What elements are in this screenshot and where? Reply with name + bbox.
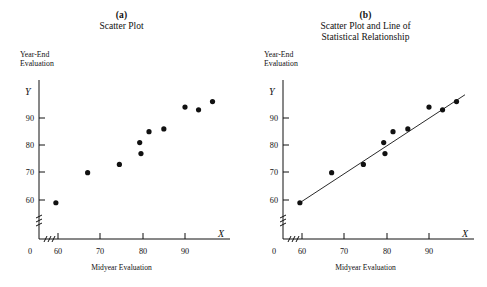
- data-point: [117, 162, 122, 167]
- data-point: [361, 162, 366, 167]
- panel-b-ytick-90: 90: [270, 114, 278, 123]
- panel-a-plot: 90 80 70 60 0 60 70 80 90: [0, 0, 243, 287]
- panel-b-ytick-60: 60: [270, 196, 278, 205]
- data-point: [329, 170, 334, 175]
- panel-b-axes: [283, 80, 474, 239]
- data-point: [454, 99, 459, 104]
- panel-b-y-ticks: 90 80 70 60: [270, 114, 289, 205]
- data-point: [182, 104, 187, 109]
- panel-a-xtick-60: 60: [54, 247, 62, 256]
- panel-a: (a) Scatter Plot Year-End Evaluation Y X…: [0, 0, 243, 287]
- panel-a-y-ticks: 90 80 70 60: [26, 114, 45, 205]
- panel-a-ytick-70: 70: [26, 168, 34, 177]
- data-point: [85, 170, 90, 175]
- panel-a-axes: [39, 80, 230, 239]
- data-point: [196, 107, 201, 112]
- panel-a-ytick-90: 90: [26, 114, 34, 123]
- data-point: [440, 107, 445, 112]
- data-point: [405, 126, 410, 131]
- panel-b-xtick-70: 70: [340, 247, 348, 256]
- panel-a-ytick-80: 80: [26, 141, 34, 150]
- panel-b-ytick-70: 70: [270, 168, 278, 177]
- panel-b-xtick-60: 60: [298, 247, 306, 256]
- data-point: [146, 129, 151, 134]
- panel-a-xtick-80: 80: [139, 247, 147, 256]
- data-point: [426, 104, 431, 109]
- panel-b-xtick-90: 90: [425, 247, 433, 256]
- panel-a-x-ticks: 0 60 70 80 90: [28, 233, 189, 256]
- data-point: [53, 200, 58, 205]
- panel-b-regression-line: [300, 95, 465, 203]
- data-point: [210, 99, 215, 104]
- figure-canvas: (a) Scatter Plot Year-End Evaluation Y X…: [0, 0, 487, 287]
- data-point: [138, 151, 143, 156]
- panel-b: (b) Scatter Plot and Line of Statistical…: [244, 0, 487, 287]
- panel-b-ytick-80: 80: [270, 141, 278, 150]
- panel-b-plot: 90 80 70 60 0 60 70 80 90: [244, 0, 487, 287]
- panel-a-data-points: [53, 99, 215, 205]
- data-point: [137, 140, 142, 145]
- panel-b-xtick-80: 80: [383, 247, 391, 256]
- panel-b-xtick-origin: 0: [272, 247, 276, 256]
- panel-a-xtick-origin: 0: [28, 247, 32, 256]
- panel-b-x-axis-caption: Midyear Evaluation: [244, 263, 487, 272]
- data-point: [390, 129, 395, 134]
- data-point: [297, 200, 302, 205]
- panel-a-xtick-70: 70: [96, 247, 104, 256]
- panel-a-x-axis-caption: Midyear Evaluation: [0, 263, 243, 272]
- regression-line: [300, 95, 465, 203]
- data-point: [381, 140, 386, 145]
- panel-a-xtick-90: 90: [181, 247, 189, 256]
- panel-b-x-ticks: 0 60 70 80 90: [272, 233, 433, 256]
- panel-a-ytick-60: 60: [26, 196, 34, 205]
- data-point: [382, 151, 387, 156]
- data-point: [161, 126, 166, 131]
